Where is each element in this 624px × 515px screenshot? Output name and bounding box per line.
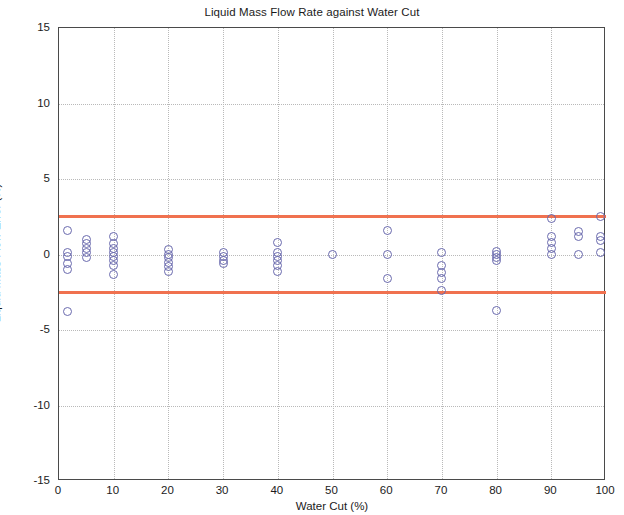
data-point-marker [383,226,392,235]
data-point-marker [273,238,282,247]
data-point-marker [437,274,446,283]
x-tick-label: 90 [544,484,557,496]
y-tick-label: -10 [4,399,50,411]
data-point-marker [492,256,501,265]
x-tick-label: 60 [380,484,393,496]
data-point-marker [492,306,501,315]
data-point-marker [383,250,392,259]
data-point-marker [63,226,72,235]
y-tick-label: 15 [4,21,50,33]
data-point-marker [547,250,556,259]
y-axis-title: Liquid Mass Flow Error (%) [0,184,2,323]
data-point-marker [383,274,392,283]
plot-area [58,27,605,480]
chart-title: Liquid Mass Flow Rate against Water Cut [0,6,624,18]
x-tick-label: 80 [489,484,502,496]
limit-line [59,215,606,218]
data-point-marker [574,232,583,241]
x-tick-label: 20 [161,484,174,496]
data-point-marker [82,253,91,262]
data-point-marker [437,248,446,257]
data-point-marker [596,248,605,257]
y-tick-label: -15 [4,474,50,486]
data-point-marker [109,270,118,279]
y-tick-label: 10 [4,97,50,109]
data-point-marker [164,267,173,276]
data-point-marker [273,267,282,276]
data-point-marker [328,250,337,259]
data-point-marker [219,259,228,268]
data-point-marker [437,286,446,295]
data-point-marker [596,236,605,245]
x-tick-label: 70 [434,484,447,496]
x-axis-title: Water Cut (%) [296,500,368,512]
y-tick-label: 5 [4,172,50,184]
data-point-marker [63,307,72,316]
data-point-marker [109,261,118,270]
y-tick-label: 0 [4,248,50,260]
x-tick-label: 40 [270,484,283,496]
limit-line [59,291,606,294]
data-point-marker [574,250,583,259]
x-tick-label: 0 [55,484,61,496]
data-points-layer [59,28,604,479]
y-tick-label: -5 [4,323,50,335]
x-tick-label: 50 [325,484,338,496]
x-tick-label: 100 [595,484,614,496]
data-point-marker [63,265,72,274]
chart-figure: Liquid Mass Flow Rate against Water Cut … [0,0,624,515]
data-point-marker [596,212,605,221]
data-point-marker [547,214,556,223]
x-tick-label: 10 [106,484,119,496]
x-tick-label: 30 [216,484,229,496]
